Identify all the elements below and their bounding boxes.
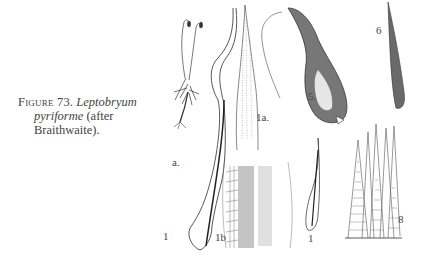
leaf-cells-1b-illustration: [223, 162, 292, 248]
leaf-1a-illustration: [236, 5, 258, 150]
peristome-teeth-8-illustration: [345, 124, 402, 238]
label-teeth-8: 8: [398, 213, 404, 225]
whole-plant-illustration: [174, 20, 203, 129]
botanical-plate: [0, 0, 427, 260]
label-small-leaf-1: 1: [308, 232, 314, 244]
label-capsule-5: 5.: [308, 90, 316, 102]
capsule-5-illustration: [262, 8, 347, 124]
label-a: a.: [172, 156, 180, 168]
leaf-1-illustration: [189, 8, 237, 250]
label-leaf-1: 1: [163, 230, 169, 242]
small-leaf-1-illustration: [306, 138, 320, 230]
label-leaf-1a: 1a.: [256, 111, 269, 123]
item-6-illustration: [388, 2, 405, 108]
label-leaf-1b: 1b: [215, 231, 226, 243]
label-item-6: 6: [376, 24, 382, 36]
